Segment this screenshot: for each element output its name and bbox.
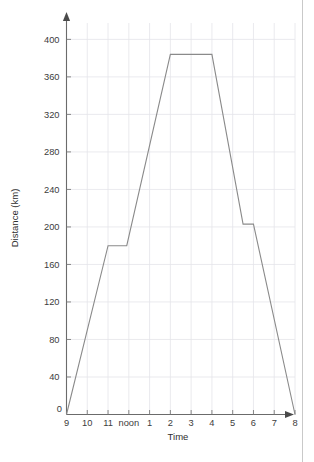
x-axis-ticks bbox=[87, 410, 295, 415]
y-axis-ticks bbox=[67, 39, 72, 377]
x-tick-label: 4 bbox=[209, 418, 214, 428]
y-tick-label: 120 bbox=[44, 297, 60, 307]
x-tick-label: 7 bbox=[272, 418, 277, 428]
origin-zero-label: 0 bbox=[57, 404, 62, 414]
x-axis-title: Time bbox=[168, 431, 189, 442]
x-tick-label: 3 bbox=[189, 418, 194, 428]
y-axis-tick-labels: 4080120160200240280320360400 bbox=[44, 35, 60, 383]
x-tick-label: 9 bbox=[64, 418, 69, 428]
y-tick-label: 280 bbox=[44, 147, 60, 157]
x-tick-label: 10 bbox=[82, 418, 92, 428]
x-tick-label: 2 bbox=[168, 418, 173, 428]
y-axis-arrow-icon bbox=[63, 12, 70, 21]
vertical-gridlines bbox=[87, 23, 295, 415]
y-tick-label: 360 bbox=[44, 72, 60, 82]
series-line-journey bbox=[67, 54, 296, 414]
y-tick-label: 200 bbox=[44, 222, 60, 232]
y-tick-label: 160 bbox=[44, 260, 60, 270]
y-axis-title: Distance (km) bbox=[9, 189, 20, 248]
x-tick-label: noon bbox=[118, 418, 139, 428]
y-tick-label: 240 bbox=[44, 185, 60, 195]
distance-time-line-chart: 4080120160200240280320360400 91011noon12… bbox=[0, 0, 314, 462]
horizontal-gridlines bbox=[67, 39, 296, 377]
y-tick-label: 40 bbox=[49, 372, 59, 382]
chart-container: 4080120160200240280320360400 91011noon12… bbox=[0, 0, 314, 462]
x-tick-label: 11 bbox=[103, 418, 113, 428]
x-tick-label: 1 bbox=[147, 418, 152, 428]
y-tick-label: 320 bbox=[44, 110, 60, 120]
x-tick-label: 6 bbox=[251, 418, 256, 428]
x-tick-label: 5 bbox=[230, 418, 235, 428]
axes bbox=[63, 12, 294, 418]
y-tick-label: 80 bbox=[49, 335, 59, 345]
y-tick-label: 400 bbox=[44, 35, 60, 45]
x-tick-label: 8 bbox=[292, 418, 297, 428]
x-axis-tick-labels: 91011noon12345678 bbox=[64, 418, 298, 428]
